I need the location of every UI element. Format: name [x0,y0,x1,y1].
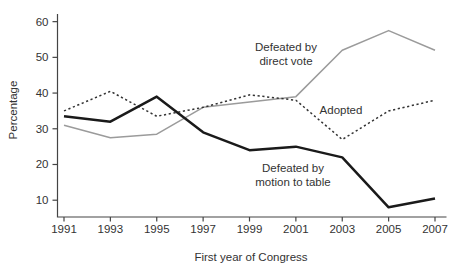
x-tick-label: 2007 [422,223,448,235]
axis-lines [58,14,447,217]
y-tick-label: 40 [36,87,49,99]
y-tick-label: 30 [36,123,49,135]
series-label: Adopted [320,104,363,116]
y-tick-label: 50 [36,51,49,63]
chart-figure: 1020304050601991199319951997199920012003… [0,0,456,277]
x-tick-label: 1993 [98,223,124,235]
series-annotations: Defeated bydirect voteAdoptedDefeated by… [255,41,362,188]
x-tick-label: 1995 [144,223,170,235]
y-axis-label: Percentage [7,81,19,140]
x-tick-label: 1999 [237,223,263,235]
y-tick-label: 60 [36,16,49,28]
series-lines [64,31,435,208]
x-tick-label: 1991 [51,223,77,235]
x-axis-label: First year of Congress [194,251,307,263]
series-line-defeated-by-motion-to-table [64,97,435,208]
series-label: Defeated by [262,162,324,174]
series-label: Defeated by [255,41,317,53]
series-label: motion to table [255,176,330,188]
y-tick-label: 10 [36,194,49,206]
x-tick-label: 2005 [376,223,402,235]
line-chart: 1020304050601991199319951997199920012003… [0,0,456,277]
axes [53,14,447,222]
tick-labels: 1020304050601991199319951997199920012003… [36,16,448,235]
x-tick-label: 2003 [329,223,355,235]
x-tick-label: 2001 [283,223,309,235]
x-tick-label: 1997 [190,223,216,235]
series-line-defeated-by-direct-vote [64,31,435,138]
series-label: direct vote [259,55,312,67]
y-tick-label: 20 [36,158,49,170]
